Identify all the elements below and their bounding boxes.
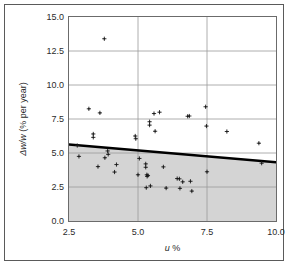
data-point: [153, 129, 157, 133]
data-point: [204, 124, 208, 128]
data-point: [134, 137, 138, 141]
y-axis-tick-label: 7.5: [30, 115, 64, 124]
y-axis-title-unit: (% per year): [18, 82, 28, 134]
shaded-region: [69, 145, 276, 221]
y-axis-tick-label: 5.0: [30, 149, 64, 158]
plot-canvas: [69, 17, 276, 221]
x-axis-tick-labels: 2.55.07.510.0: [0, 228, 290, 242]
data-point: [102, 37, 106, 41]
x-axis-tick-label: 5.0: [118, 228, 158, 237]
y-axis-tick-label: 15.0: [30, 13, 64, 22]
x-axis-title: u %: [68, 243, 277, 253]
scatter-chart: 0.02.55.07.510.012.515.0 2.55.07.510.0 u…: [0, 0, 290, 267]
data-point: [157, 110, 161, 114]
y-axis-title-container: Δw/w (% per year): [16, 16, 30, 222]
x-axis-tick-label: 2.5: [49, 228, 89, 237]
data-point: [225, 129, 229, 133]
data-point: [257, 141, 261, 145]
y-axis-tick-label: 0.0: [30, 217, 64, 226]
data-point: [147, 123, 151, 127]
y-axis-tick-label: 2.5: [30, 183, 64, 192]
y-axis-title: Δw/w (% per year): [18, 82, 28, 156]
y-axis-tick-label: 12.5: [30, 47, 64, 56]
y-axis-tick-labels: 0.02.55.07.510.012.515.0: [28, 0, 64, 267]
data-point: [91, 135, 95, 139]
plot-area: [68, 16, 277, 222]
data-point: [98, 111, 102, 115]
data-point: [87, 107, 91, 111]
x-axis-tick-label: 10.0: [256, 228, 290, 237]
data-point: [152, 111, 156, 115]
data-point: [133, 134, 137, 138]
x-axis-title-unit: %: [170, 243, 181, 253]
y-axis-title-variable: Δw/w: [18, 134, 28, 156]
y-axis-tick-label: 10.0: [30, 81, 64, 90]
x-axis-tick-label: 7.5: [187, 228, 227, 237]
